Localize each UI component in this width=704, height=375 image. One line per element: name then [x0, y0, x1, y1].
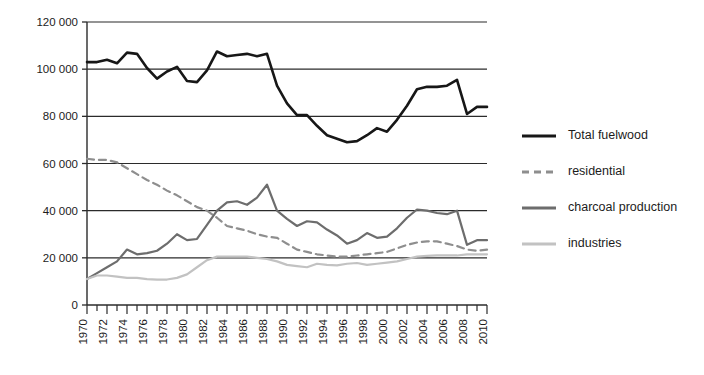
- x-tick-label: 1974: [117, 318, 129, 344]
- y-tick-label: 20 000: [43, 252, 78, 264]
- x-tick-label: 1980: [177, 319, 189, 345]
- x-tick-label: 1972: [97, 319, 109, 345]
- x-tick-label: 2004: [417, 318, 429, 344]
- y-tick-label: 80 000: [43, 110, 78, 122]
- x-tick-label: 1998: [357, 319, 369, 345]
- y-tick-label: 0: [72, 299, 78, 311]
- x-tick-labels: 1970197219741976197819801982198419861988…: [77, 318, 489, 344]
- y-tick-labels: 020 00040 00060 00080 000100 000120 000: [36, 16, 78, 311]
- x-tick-label: 2010: [477, 319, 489, 345]
- y-tick-label: 100 000: [36, 63, 78, 75]
- x-tick-label: 1992: [297, 319, 309, 345]
- series-line-residential: [87, 159, 487, 257]
- legend-label: residential: [568, 164, 625, 178]
- legend-label: Total fuelwood: [568, 128, 648, 142]
- grid-lines: [87, 22, 487, 258]
- x-tick-label: 1970: [77, 319, 89, 345]
- x-tick-label: 1982: [197, 319, 209, 345]
- chart-legend: Total fuelwoodresidentialcharcoal produc…: [522, 128, 677, 250]
- y-axis: [82, 22, 87, 305]
- x-tick-label: 1984: [217, 318, 229, 344]
- x-tick-label: 2006: [437, 319, 449, 345]
- x-tick-label: 2000: [377, 319, 389, 345]
- y-tick-label: 40 000: [43, 205, 78, 217]
- y-tick-label: 60 000: [43, 158, 78, 170]
- x-tick-label: 1990: [277, 319, 289, 345]
- line-chart: 020 00040 00060 00080 000100 000120 000 …: [0, 0, 704, 375]
- x-tick-label: 1978: [157, 319, 169, 345]
- x-tick-label: 1988: [257, 319, 269, 345]
- series-line-total-fuelwood: [87, 51, 487, 142]
- x-tick-label: 2002: [397, 319, 409, 345]
- x-tick-label: 1994: [317, 318, 329, 344]
- series-lines: [87, 51, 487, 279]
- y-tick-label: 120 000: [36, 16, 78, 28]
- x-tick-label: 1996: [337, 319, 349, 345]
- legend-label: charcoal production: [568, 200, 677, 214]
- x-tick-label: 1976: [137, 319, 149, 345]
- legend-label: industries: [568, 236, 622, 250]
- x-tick-label: 2008: [457, 319, 469, 345]
- x-axis: [87, 305, 487, 314]
- chart-canvas: 020 00040 00060 00080 000100 000120 000 …: [0, 0, 704, 375]
- x-tick-label: 1986: [237, 319, 249, 345]
